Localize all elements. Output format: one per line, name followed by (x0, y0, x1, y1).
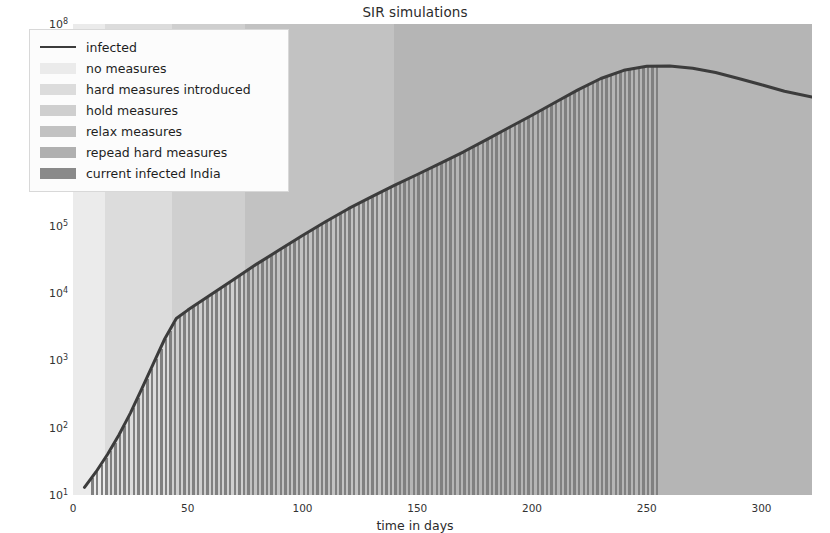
y-tick-label: 104 (4, 287, 68, 300)
y-tick-exponent: 4 (63, 286, 68, 295)
x-tick-label: 50 (181, 502, 194, 514)
x-tick-label: 250 (637, 502, 657, 514)
y-tick-exponent: 5 (63, 219, 68, 228)
legend-item-label: infected (86, 40, 137, 55)
y-tick-mantissa: 10 (49, 422, 63, 435)
legend-item: hard measures introduced (40, 79, 280, 100)
legend-item: hold measures (40, 100, 280, 121)
x-tick-label: 0 (70, 502, 77, 514)
legend-item-label: repead hard measures (86, 145, 227, 160)
legend-item-label: hard measures introduced (86, 82, 251, 97)
x-tick-label: 150 (407, 502, 427, 514)
legend-item: repead hard measures (40, 142, 280, 163)
legend-item: no measures (40, 58, 280, 79)
legend-item: relax measures (40, 121, 280, 142)
y-tick-exponent: 1 (63, 488, 68, 497)
y-tick-exponent: 3 (63, 353, 68, 362)
chart-figure: SIR simulations 108107106105104103102101… (0, 0, 830, 533)
legend-item-label: hold measures (86, 103, 178, 118)
x-axis-title: time in days (0, 518, 830, 533)
legend-item-label: no measures (86, 61, 167, 76)
y-tick-exponent: 8 (63, 17, 68, 26)
legend-patch-swatch (40, 126, 76, 137)
legend-item: infected (40, 37, 280, 58)
legend-patch-swatch (40, 168, 76, 179)
x-tick-label: 300 (751, 502, 771, 514)
y-tick-exponent: 2 (63, 420, 68, 429)
legend-patch-swatch (40, 63, 76, 74)
y-tick-label: 103 (4, 354, 68, 367)
y-tick-mantissa: 10 (49, 287, 63, 300)
y-tick-mantissa: 10 (49, 355, 63, 368)
x-tick-label: 200 (522, 502, 542, 514)
y-tick-mantissa: 10 (49, 220, 63, 233)
chart-title: SIR simulations (0, 4, 830, 20)
legend-patch-swatch (40, 147, 76, 158)
y-tick-label: 101 (4, 489, 68, 502)
legend-line-swatch (40, 42, 76, 53)
y-tick-label: 105 (4, 220, 68, 233)
y-tick-label: 102 (4, 421, 68, 434)
legend-patch-swatch (40, 105, 76, 116)
legend-item-label: current infected India (86, 166, 221, 181)
legend-item: current infected India (40, 163, 280, 184)
x-tick-label: 100 (292, 502, 312, 514)
legend-patch-swatch (40, 84, 76, 95)
chart-legend: infectedno measureshard measures introdu… (29, 29, 289, 192)
y-tick-mantissa: 10 (49, 489, 63, 502)
legend-item-label: relax measures (86, 124, 182, 139)
